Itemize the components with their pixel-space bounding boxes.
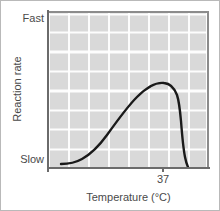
y-axis-line: [47, 10, 49, 169]
y-axis-label-fast: Fast: [1, 12, 44, 24]
y-axis-title: Reaction rate: [11, 44, 23, 134]
reaction-rate-temperature-figure: Fast Slow Reaction rate 37 Temperature (…: [0, 0, 220, 211]
y-axis-label-slow: Slow: [1, 153, 44, 165]
x-axis-title: Temperature (°C): [41, 191, 216, 203]
curve-path: [61, 83, 188, 167]
x-axis-origin-tick: [47, 167, 49, 172]
reaction-rate-curve: [49, 13, 209, 167]
x-axis-tick-label-37: 37: [143, 173, 183, 185]
x-axis-tick-37: [162, 167, 164, 172]
plot-area: [49, 11, 209, 167]
x-axis-line: [47, 167, 210, 169]
